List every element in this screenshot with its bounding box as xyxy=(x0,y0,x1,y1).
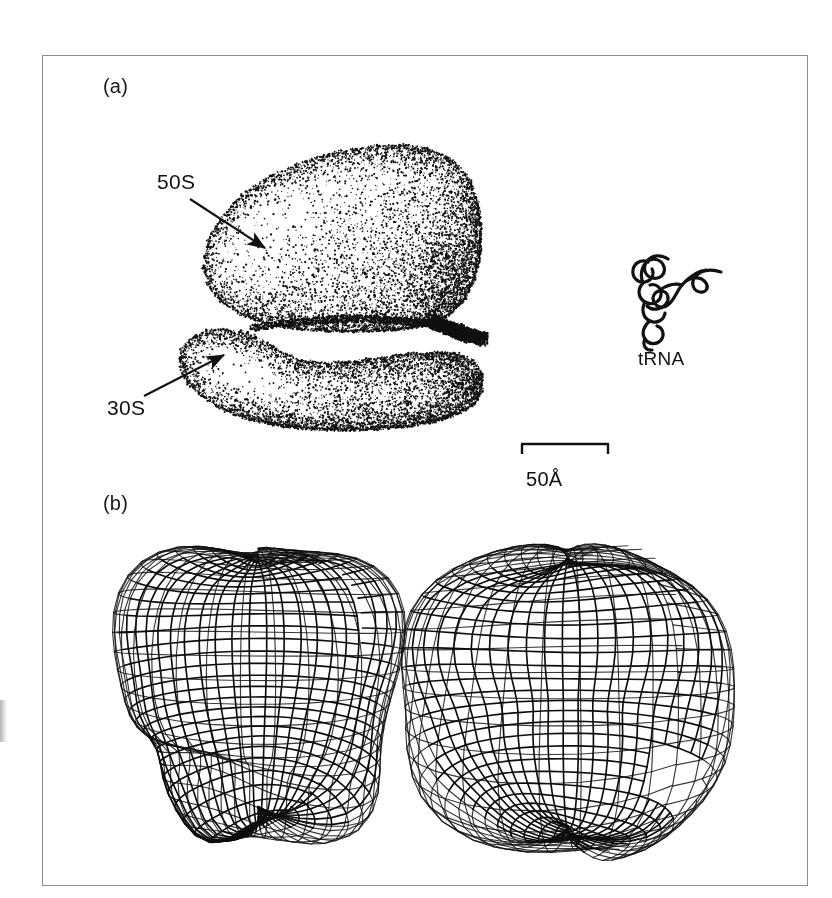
label-50s: 50S xyxy=(157,170,195,194)
panel-a-label: (a) xyxy=(103,75,128,98)
label-trna: tRNA xyxy=(638,348,685,370)
scale-bar-label: 50Å xyxy=(526,468,563,491)
ribosome-stipple-drawing xyxy=(0,0,832,898)
figure-page: (a) (b) 50S 30S tRNA 50Å xyxy=(0,0,832,898)
label-30s: 30S xyxy=(107,396,145,420)
panel-b-label: (b) xyxy=(103,492,128,515)
